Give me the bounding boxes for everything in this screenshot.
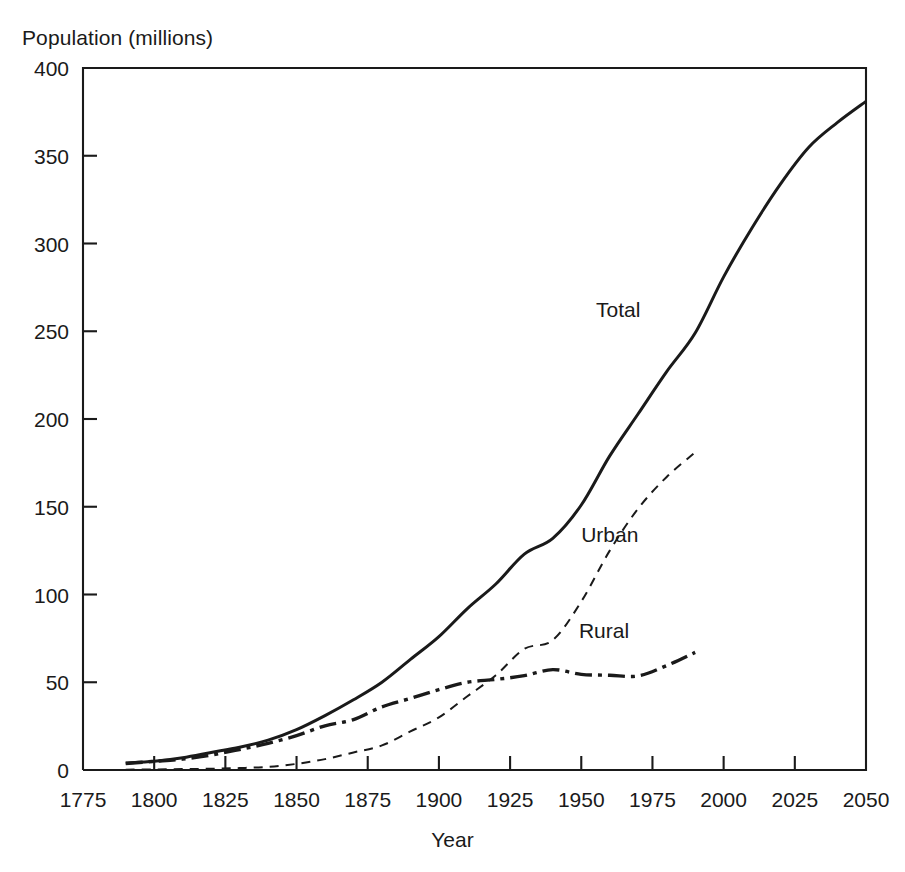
y-tick-label: 100 xyxy=(34,584,69,607)
series-label-rural: Rural xyxy=(579,619,629,642)
x-tick-label: 1975 xyxy=(629,788,676,811)
population-chart-figure: Population (millions) 050100150200250300… xyxy=(0,0,905,872)
y-tick-label: 250 xyxy=(34,320,69,343)
y-tick-label: 150 xyxy=(34,496,69,519)
axis-frame xyxy=(83,68,866,770)
y-axis-title: Population (millions) xyxy=(22,26,213,50)
series-label-group: TotalUrbanRural xyxy=(579,298,641,642)
x-tick-label: 2000 xyxy=(700,788,747,811)
y-axis-tick-group: 050100150200250300350400 xyxy=(34,57,97,782)
series-line-urban xyxy=(126,452,695,769)
x-tick-label: 1950 xyxy=(558,788,605,811)
x-tick-label: 1800 xyxy=(131,788,178,811)
x-axis-title-wrap: Year xyxy=(0,828,905,852)
y-tick-label: 200 xyxy=(34,408,69,431)
x-tick-label: 2050 xyxy=(843,788,890,811)
series-group xyxy=(126,101,866,769)
x-tick-label: 2025 xyxy=(771,788,818,811)
x-tick-label: 1875 xyxy=(344,788,391,811)
series-line-rural xyxy=(126,652,695,763)
x-tick-label: 1900 xyxy=(416,788,463,811)
x-tick-label: 1925 xyxy=(487,788,534,811)
x-tick-label: 1825 xyxy=(202,788,249,811)
chart-plot-area: 050100150200250300350400 177518001825185… xyxy=(0,0,905,872)
series-label-urban: Urban xyxy=(581,523,638,546)
y-tick-label: 350 xyxy=(34,145,69,168)
y-tick-label: 0 xyxy=(57,759,69,782)
x-tick-label: 1850 xyxy=(273,788,320,811)
y-tick-label: 400 xyxy=(34,57,69,80)
series-label-total: Total xyxy=(596,298,640,321)
x-tick-label: 1775 xyxy=(60,788,107,811)
y-tick-label: 300 xyxy=(34,233,69,256)
series-line-total xyxy=(126,101,866,763)
x-axis-tick-group: 1775180018251850187519001925195019752000… xyxy=(60,756,890,811)
x-axis-title: Year xyxy=(431,828,473,852)
y-tick-label: 50 xyxy=(46,671,69,694)
